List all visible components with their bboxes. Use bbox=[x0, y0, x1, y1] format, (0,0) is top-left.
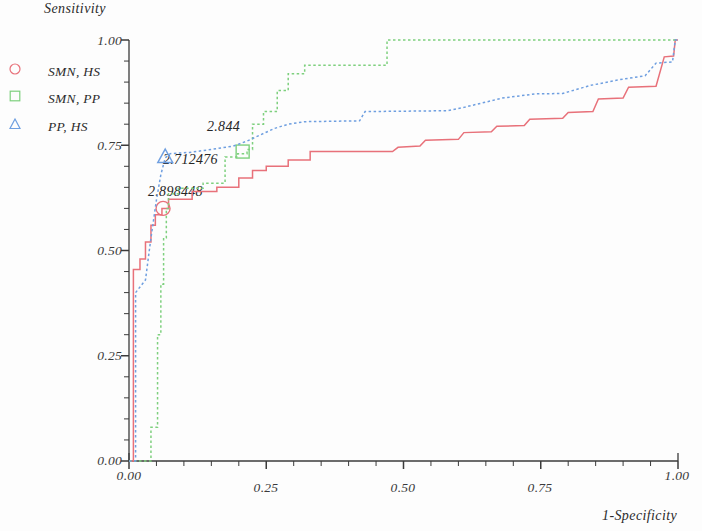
plot-area bbox=[0, 0, 702, 531]
roc-chart-figure: Sensitivity 1-Specificity 1.00 0.75 0.50… bbox=[0, 0, 702, 531]
series-line-1 bbox=[129, 40, 678, 461]
series-line-2 bbox=[129, 40, 678, 461]
series-line-0 bbox=[129, 40, 678, 461]
